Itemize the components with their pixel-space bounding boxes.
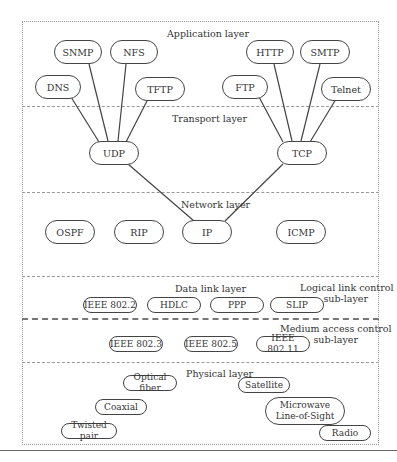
node-radio: Radio: [319, 425, 371, 441]
node-telnet: Telnet: [321, 77, 371, 101]
data-link-layer-label: Data link layer: [175, 283, 246, 294]
node-tcp: TCP: [277, 141, 327, 165]
node-snmp: SNMP: [54, 40, 102, 64]
llc-label-line1: Logical link control: [300, 282, 378, 293]
node-optical-fiber: Optical fiber: [123, 375, 177, 391]
caption-rule: [0, 450, 397, 451]
node-smtp: SMTP: [300, 40, 350, 64]
network-layer-label: Network layer: [181, 199, 250, 210]
node-tftp: TFTP: [135, 77, 185, 101]
node-ftp: FTP: [222, 75, 268, 99]
node-ospf: OSPF: [45, 220, 95, 244]
node-microwave-los: Microwave Line-of-Sight: [265, 397, 345, 425]
node-slip: SLIP: [270, 297, 324, 313]
transport-layer-label: Transport layer: [172, 113, 247, 124]
node-ppp: PPP: [210, 297, 264, 313]
node-hdlc: HDLC: [147, 297, 201, 313]
node-coaxial: Coaxial: [95, 399, 147, 415]
node-ieee-802-11: IEEE 802.11: [256, 336, 310, 352]
node-rip: RIP: [114, 220, 164, 244]
node-nfs: NFS: [110, 40, 158, 64]
node-ieee-802-2: IEEE 802.2: [83, 297, 137, 313]
node-satellite: Satellite: [238, 377, 290, 393]
microwave-line2: Line-of-Sight: [276, 411, 335, 422]
application-layer-label: Application layer: [167, 28, 249, 39]
node-icmp: ICMP: [276, 220, 326, 244]
microwave-line1: Microwave: [280, 400, 330, 411]
node-twisted-pair: Twisted pair: [61, 423, 117, 439]
node-http: HTTP: [246, 40, 294, 64]
node-ieee-802-3: IEEE 802.3: [109, 336, 163, 352]
node-dns: DNS: [35, 75, 81, 99]
node-ip: IP: [182, 220, 232, 244]
node-udp: UDP: [89, 141, 139, 165]
node-ieee-802-5: IEEE 802.5: [184, 336, 238, 352]
